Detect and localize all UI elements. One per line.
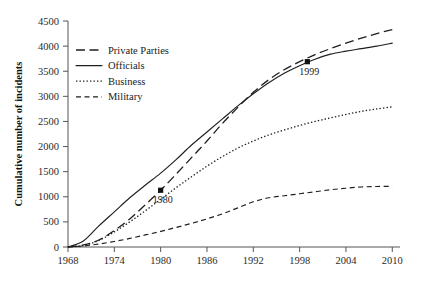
series-line-officials <box>68 43 392 247</box>
legend-label: Business <box>108 76 145 87</box>
y-tick-label: 3500 <box>38 66 59 77</box>
annotation-label: 1980 <box>153 194 173 205</box>
y-tick-group: 050010001500200025003000350040004500 <box>38 16 68 253</box>
x-tick-label: 2004 <box>335 255 357 266</box>
legend-item-officials: Officials <box>76 60 145 71</box>
legend-item-private-parties: Private Parties <box>76 45 169 56</box>
y-tick-label: 4000 <box>38 41 59 52</box>
x-tick-label: 1980 <box>150 255 171 266</box>
y-tick-label: 2000 <box>38 141 59 152</box>
chart-container: Cumulative number of incidents 050010001… <box>0 0 421 287</box>
x-axis: 19681974198019861992199820042010 <box>58 247 403 266</box>
y-tick-label: 500 <box>43 216 59 227</box>
x-tick-label: 2010 <box>382 255 403 266</box>
y-axis: 050010001500200025003000350040004500 <box>38 16 68 253</box>
y-tick-label: 4500 <box>38 16 59 27</box>
chart-legend: Private PartiesOfficialsBusinessMilitary <box>76 45 169 103</box>
annotation-marker <box>305 59 310 64</box>
legend-label: Military <box>108 91 143 102</box>
x-tick-label: 1986 <box>196 255 217 266</box>
series-line-military <box>68 186 392 247</box>
legend-item-business: Business <box>76 76 145 87</box>
legend-label: Private Parties <box>108 45 169 56</box>
legend-item-military: Military <box>76 91 143 102</box>
x-tick-label: 1968 <box>58 255 79 266</box>
x-tick-group: 19681974198019861992199820042010 <box>58 247 403 266</box>
x-tick-label: 1974 <box>104 255 126 266</box>
y-tick-label: 0 <box>54 242 59 253</box>
annotation-marker <box>158 188 163 193</box>
y-tick-label: 1500 <box>38 166 59 177</box>
y-tick-label: 3000 <box>38 91 59 102</box>
legend-label: Officials <box>108 60 145 71</box>
annotation-label: 1999 <box>299 66 319 77</box>
y-tick-label: 2500 <box>38 116 59 127</box>
incidents-line-chart: Cumulative number of incidents 050010001… <box>0 0 421 287</box>
annotation-group: 19801999 <box>153 59 320 205</box>
y-axis-title-text: Cumulative number of incidents <box>13 62 24 207</box>
y-tick-label: 1000 <box>38 191 59 202</box>
series-line-business <box>68 107 392 247</box>
x-tick-label: 1992 <box>243 255 264 266</box>
x-tick-label: 1998 <box>289 255 310 266</box>
y-axis-title: Cumulative number of incidents <box>13 62 24 207</box>
